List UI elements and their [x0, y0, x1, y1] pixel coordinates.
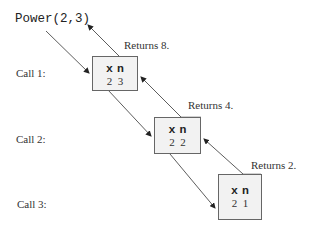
frame-1-values: 23 [93, 75, 137, 87]
call-label-2: Call 2: [16, 133, 46, 145]
stack-frame-3: xn 21 [218, 174, 262, 220]
frame-3-header-n: n [240, 185, 251, 197]
stack-frame-2: xn 22 [154, 117, 201, 154]
return-label-2: Returns 4. [188, 99, 233, 111]
return-arrow-1 [88, 25, 119, 56]
call-label-1: Call 1: [16, 67, 46, 79]
call-arrow-2 [108, 90, 151, 136]
frame-3-value-x: 2 [229, 197, 240, 209]
call-label-3: Call 3: [17, 198, 47, 210]
frame-2-values: 22 [155, 136, 200, 148]
stack-frame-1: xn 23 [92, 56, 138, 91]
frame-3-value-n: 1 [240, 197, 251, 209]
frame-1-header-x: x [104, 63, 115, 75]
frame-1-header-n: n [115, 63, 126, 75]
frame-1-value-x: 2 [104, 75, 115, 87]
recursion-trace-diagram: Power(2,3) Call 1: Call 2: Call 3: Retur… [0, 0, 312, 229]
frame-2-header-n: n [178, 124, 189, 136]
frame-2-value-x: 2 [167, 136, 178, 148]
frame-3-values: 21 [219, 197, 261, 209]
call-arrow-3 [170, 154, 215, 208]
return-arrow-3 [204, 139, 243, 174]
frame-1-value-n: 3 [115, 75, 126, 87]
initial-call-expression: Power(2,3) [15, 12, 90, 26]
return-label-1: Returns 8. [124, 39, 169, 51]
frame-1-headers: xn [93, 63, 137, 75]
return-arrow-2 [141, 77, 181, 117]
frame-2-header-x: x [167, 124, 178, 136]
frame-3-headers: xn [219, 185, 261, 197]
frame-3-header-x: x [229, 185, 240, 197]
arrows-layer [0, 0, 312, 229]
return-label-3: Returns 2. [251, 159, 296, 171]
call-arrow-1 [46, 31, 89, 73]
frame-2-headers: xn [155, 124, 200, 136]
frame-2-value-n: 2 [178, 136, 189, 148]
